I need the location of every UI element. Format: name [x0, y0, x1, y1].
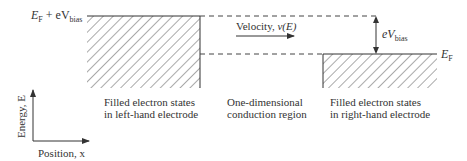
- right-electrode-states: [323, 54, 437, 88]
- energy-axis-label: Energy, E: [15, 95, 27, 138]
- left-caption-line2: in left-hand electrode: [104, 108, 198, 120]
- ef-plus-bias-label: EF + eVbias: [30, 8, 82, 24]
- position-axis-label: Position, x: [38, 147, 86, 159]
- middle-caption-line2: conduction region: [227, 108, 307, 120]
- energy-diagram: EF + eVbias Velocity, v(E) eVbias EF Fil…: [0, 0, 467, 161]
- bias-label: eVbias: [382, 27, 408, 43]
- velocity-label: Velocity, v(E): [236, 20, 297, 33]
- right-caption-line1: Filled electron states: [330, 96, 421, 108]
- right-caption-line2: in right-hand electrode: [330, 108, 430, 120]
- bias-double-arrow: [373, 16, 379, 54]
- middle-caption-line1: One-dimensional: [227, 96, 303, 108]
- left-caption-line1: Filled electron states: [104, 96, 195, 108]
- axes: [33, 90, 89, 141]
- fermi-level-label: EF: [440, 47, 453, 63]
- left-electrode-states: [87, 16, 200, 88]
